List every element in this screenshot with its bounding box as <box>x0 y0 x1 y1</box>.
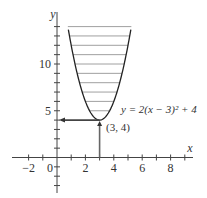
arrowhead-left-icon <box>59 118 65 123</box>
x-tick-label: 0 <box>47 161 53 175</box>
equation-label: y = 2(x − 3)² + 4 <box>120 103 197 116</box>
labels: −202468510xyy = 2(x − 3)² + 4(3, 4) <box>22 7 197 175</box>
y-tick-label: 10 <box>39 57 51 71</box>
x-tick-label: −2 <box>22 161 35 175</box>
x-axis-label: x <box>186 141 193 155</box>
parabola-chart: −202468510xyy = 2(x − 3)² + 4(3, 4) <box>0 0 207 198</box>
x-tick-label: 4 <box>111 161 117 175</box>
y-tick-label: 5 <box>45 104 51 118</box>
shading-lines <box>68 27 132 111</box>
y-axis-label: y <box>49 7 56 21</box>
arrowhead-up-icon <box>97 121 102 126</box>
x-tick-label: 8 <box>168 161 174 175</box>
x-tick-label: 2 <box>82 161 88 175</box>
x-tick-label: 6 <box>139 161 145 175</box>
vertex-label: (3, 4) <box>106 121 130 134</box>
arrows <box>59 118 102 158</box>
